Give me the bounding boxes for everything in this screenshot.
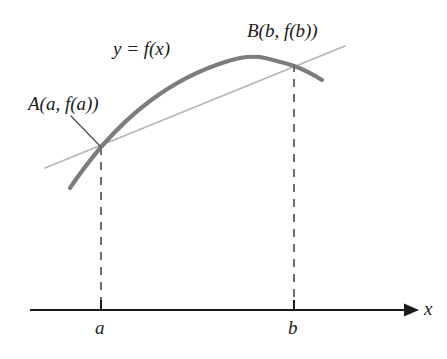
- point-b-label: B(b, f(b)): [247, 21, 318, 40]
- tick-label-a: a: [95, 318, 105, 337]
- figure-canvas: y = f(x) A(a, f(a)) B(b, f(b)) x a b: [0, 0, 447, 359]
- function-curve: [70, 57, 322, 188]
- diagram-graphics: [0, 0, 447, 359]
- point-a-label: A(a, f(a)): [28, 94, 99, 113]
- leader-line-a: [71, 116, 100, 146]
- function-label: y = f(x): [113, 39, 170, 58]
- x-axis-arrowhead: [404, 304, 419, 317]
- tick-label-b: b: [288, 318, 298, 337]
- x-axis-label: x: [424, 299, 432, 318]
